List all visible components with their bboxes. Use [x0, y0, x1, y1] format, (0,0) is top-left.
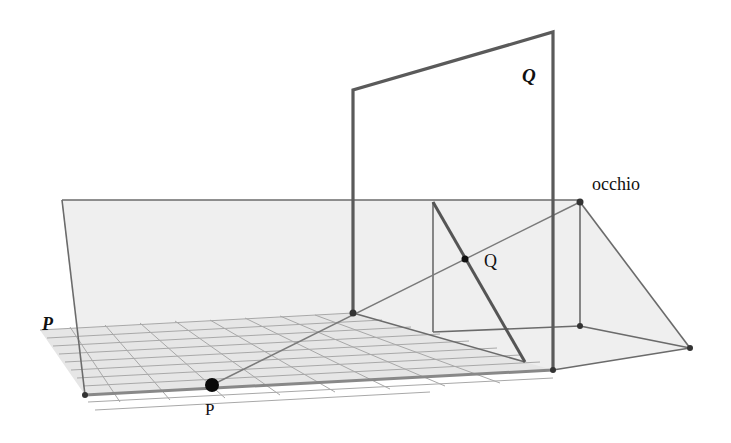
label-eye: occhio	[592, 174, 640, 194]
label-plane-P: P	[41, 314, 54, 334]
point-Q	[462, 256, 469, 263]
eye-point	[577, 199, 584, 206]
label-point-P: P	[205, 400, 214, 419]
label-point-Q: Q	[484, 251, 497, 271]
bottom-right-point	[550, 367, 556, 373]
perspective-diagram: Q P occhio Q P	[0, 0, 731, 443]
point-P	[205, 378, 219, 392]
eye-foot-point	[577, 323, 583, 329]
frame-base-point	[350, 310, 357, 317]
far-right-point	[687, 345, 693, 351]
label-plane-Q: Q	[522, 65, 536, 86]
bottom-left-point	[82, 392, 88, 398]
